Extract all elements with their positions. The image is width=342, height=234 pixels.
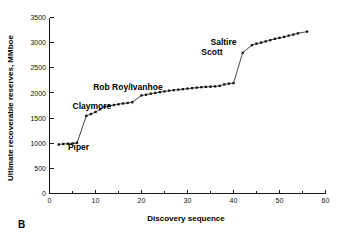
data-point-marker xyxy=(265,40,267,42)
data-point-marker xyxy=(283,36,285,38)
data-point-marker xyxy=(214,85,216,87)
data-point-marker xyxy=(255,43,257,45)
y-tick-label: 3500 xyxy=(30,14,46,21)
data-point-marker xyxy=(113,104,115,106)
x-tick-label: 20 xyxy=(138,197,146,204)
x-tick-label: 50 xyxy=(276,197,284,204)
plot-area: 0500100015002000250030003500010203040506… xyxy=(30,14,329,204)
data-point-marker xyxy=(58,143,60,145)
x-tick-label: 10 xyxy=(92,197,100,204)
annotation-label: Claymore xyxy=(73,101,112,111)
data-point-marker xyxy=(269,39,271,41)
annotation-label: Scott xyxy=(201,47,222,57)
data-point-marker xyxy=(306,30,308,32)
data-point-marker xyxy=(196,87,198,89)
data-point-marker xyxy=(154,92,156,94)
data-annotations: PiperClaymoreRob Roy/IvanhoeScottSaltire xyxy=(68,37,237,153)
panel-label: B xyxy=(18,219,25,230)
data-point-marker xyxy=(122,102,124,104)
x-tick-label: 60 xyxy=(322,197,330,204)
data-point-marker xyxy=(94,111,96,113)
data-point-marker xyxy=(209,85,211,87)
y-tick-label: 1000 xyxy=(30,140,46,147)
data-point-marker xyxy=(223,83,225,85)
data-point-marker xyxy=(182,88,184,90)
data-point-marker xyxy=(173,89,175,91)
data-point-marker xyxy=(191,87,193,89)
data-point-marker xyxy=(228,82,230,84)
data-point-marker xyxy=(297,32,299,34)
y-tick-label: 3000 xyxy=(30,39,46,46)
data-point-marker xyxy=(278,37,280,39)
annotation-label: Piper xyxy=(68,142,90,152)
data-point-marker xyxy=(251,44,253,46)
data-point-marker xyxy=(200,86,202,88)
data-point-marker xyxy=(127,102,129,104)
data-point-marker xyxy=(274,38,276,40)
x-tick-label: 30 xyxy=(184,197,192,204)
data-point-marker xyxy=(288,34,290,36)
data-point-marker xyxy=(140,94,142,96)
annotation-label: Rob Roy/Ivanhoe xyxy=(93,82,163,92)
annotation-label: Saltire xyxy=(211,37,237,47)
y-tick-label: 1500 xyxy=(30,115,46,122)
y-tick-label: 0 xyxy=(42,190,46,197)
data-point-marker xyxy=(242,52,244,54)
x-axis-title: Discovery sequence xyxy=(147,214,225,223)
y-tick-label: 2500 xyxy=(30,64,46,71)
data-point-marker xyxy=(177,89,179,91)
data-point-marker xyxy=(168,90,170,92)
data-point-marker xyxy=(85,115,87,117)
data-point-marker xyxy=(131,101,133,103)
data-point-marker xyxy=(292,33,294,35)
x-tick-label: 40 xyxy=(230,197,238,204)
y-tick-label: 2000 xyxy=(30,90,46,97)
data-point-marker xyxy=(90,113,92,115)
y-tick-label: 500 xyxy=(34,165,46,172)
data-point-marker xyxy=(163,90,165,92)
data-point-marker xyxy=(150,93,152,95)
data-point-marker xyxy=(260,41,262,43)
data-point-marker xyxy=(117,103,119,105)
data-point-marker xyxy=(219,85,221,87)
data-point-marker xyxy=(186,88,188,90)
y-axis-title: Ultimate recoverable reserves, MMboe xyxy=(6,35,15,181)
data-point-marker xyxy=(232,82,234,84)
discovery-sequence-chart: 0500100015002000250030003500010203040506… xyxy=(0,0,342,234)
chart-screenshot: 0500100015002000250030003500010203040506… xyxy=(0,0,342,234)
data-point-marker xyxy=(145,94,147,96)
data-point-marker xyxy=(62,143,64,145)
data-point-marker xyxy=(205,86,207,88)
x-tick-label: 0 xyxy=(48,197,52,204)
